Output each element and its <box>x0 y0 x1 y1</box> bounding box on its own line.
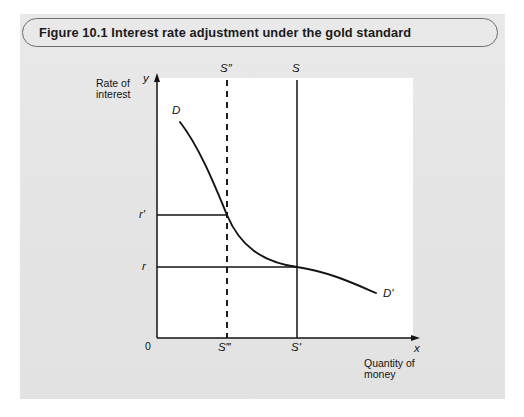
origin-label: 0 <box>145 341 151 353</box>
demand-label-start: D <box>172 104 180 117</box>
figure-caption-pill: Figure 10.1 Interest rate adjustment und… <box>22 18 498 47</box>
supply-label-bottom-solid: S' <box>291 341 301 354</box>
rate-label-low: r <box>142 260 146 273</box>
demand-label-end: D' <box>383 287 394 300</box>
rate-label-high: r' <box>139 208 145 221</box>
x-axis-symbol: x <box>414 342 420 355</box>
y-axis-title-line2: interest <box>96 89 130 101</box>
plot-canvas <box>157 78 413 338</box>
supply-label-bottom-dashed: S‴ <box>218 341 230 354</box>
supply-label-top-dashed: S″ <box>220 62 232 75</box>
figure-root: Figure 10.1 Interest rate adjustment und… <box>0 0 524 417</box>
figure-caption-text: Figure 10.1 Interest rate adjustment und… <box>23 25 411 40</box>
supply-label-top-solid: S <box>292 62 300 75</box>
y-axis-symbol: y <box>143 72 149 85</box>
x-axis-title-line2: money <box>364 369 396 381</box>
